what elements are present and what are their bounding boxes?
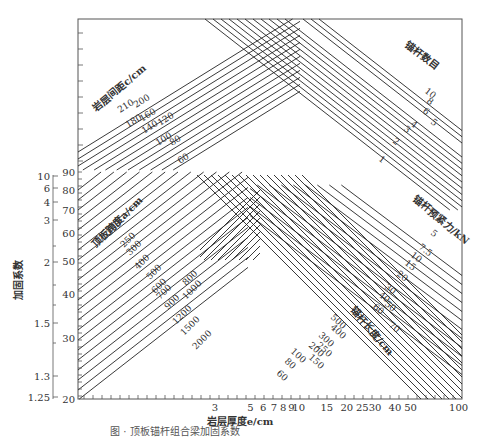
y-outer-tick-label: 10 bbox=[37, 171, 50, 182]
spacing-line bbox=[151, 77, 300, 170]
preload-line bbox=[250, 207, 462, 366]
span-line bbox=[78, 187, 248, 320]
x-tick-label: 7 bbox=[271, 402, 277, 413]
y-outer-tick-label: 4 bbox=[44, 197, 50, 208]
axes: 35678910152025304050100岩层厚度e/cm908070605… bbox=[12, 33, 468, 427]
x-tick-label: 40 bbox=[389, 402, 402, 413]
y-inner-tick-label: 40 bbox=[62, 289, 75, 300]
spacing-line-label: 200 bbox=[132, 92, 152, 110]
bolt-length-line bbox=[267, 175, 462, 370]
x-tick-label: 3 bbox=[212, 402, 218, 413]
cross-line bbox=[225, 225, 260, 260]
bolt-length-line bbox=[274, 175, 462, 363]
x-tick-label: 6 bbox=[260, 402, 266, 413]
span-line bbox=[78, 172, 216, 280]
x-tick-label: 100 bbox=[449, 402, 468, 413]
cross-line bbox=[211, 211, 260, 260]
x-tick-label: 15 bbox=[320, 402, 333, 413]
span-line bbox=[78, 247, 248, 380]
y-outer-tick-label: 3 bbox=[44, 215, 50, 226]
span-line bbox=[78, 197, 248, 330]
y-axis-label: 加固系数 bbox=[12, 259, 24, 301]
y-inner-tick-label: 60 bbox=[62, 228, 75, 239]
bolt-length-line bbox=[288, 175, 462, 349]
span-line bbox=[78, 172, 101, 190]
cross-line bbox=[246, 246, 260, 260]
y-inner-tick-label: 20 bbox=[62, 394, 75, 405]
bolt-length-label: 60 bbox=[275, 368, 290, 383]
y-outer-tick-label: 1.3 bbox=[34, 371, 50, 382]
y-inner-tick-label: 80 bbox=[62, 185, 75, 196]
bolt-count-label: 2 bbox=[391, 136, 402, 147]
span-line bbox=[78, 172, 127, 210]
bolt-count-line bbox=[303, 19, 462, 143]
x-tick-label: 30 bbox=[369, 402, 382, 413]
y-inner-tick-label: 90 bbox=[62, 167, 75, 178]
preload-family-title: 锚杆预紧力/kN bbox=[411, 192, 472, 246]
cross-line bbox=[253, 253, 260, 260]
y-outer-tick-label: 6 bbox=[44, 183, 50, 194]
y-inner-tick-label: 50 bbox=[62, 256, 75, 267]
span-line bbox=[78, 172, 165, 240]
x-tick-label: 20 bbox=[340, 402, 353, 413]
bolt-count-family-title: 锚杆数目 bbox=[403, 38, 442, 72]
y-inner-tick-label: 30 bbox=[62, 333, 75, 344]
x-tick-label: 25 bbox=[356, 402, 369, 413]
x-tick-label: 5 bbox=[247, 402, 253, 413]
span-line bbox=[78, 257, 248, 390]
y-outer-tick-label: 1.25 bbox=[28, 392, 50, 403]
x-tick-label: 50 bbox=[404, 402, 417, 413]
span-line-label: 2000 bbox=[190, 328, 213, 351]
x-tick-label: 8 bbox=[280, 402, 286, 413]
y-outer-tick-label: 1.5 bbox=[34, 318, 50, 329]
figure-caption: 图 · 顶板锚杆组合梁加固系数 bbox=[110, 423, 240, 438]
y-outer-tick-label: 2 bbox=[44, 257, 50, 268]
bolt-count-label: 1 bbox=[377, 154, 388, 165]
spacing-line bbox=[78, 19, 293, 152]
preload-line bbox=[250, 198, 462, 357]
y-inner-tick-label: 70 bbox=[62, 205, 75, 216]
preload-label: 5 bbox=[429, 228, 440, 240]
cross-line bbox=[204, 204, 260, 260]
bolt-length-line bbox=[218, 175, 442, 399]
preload-line bbox=[329, 185, 462, 285]
bolt-count-line bbox=[285, 19, 462, 157]
x-tick-label: 10 bbox=[292, 402, 305, 413]
